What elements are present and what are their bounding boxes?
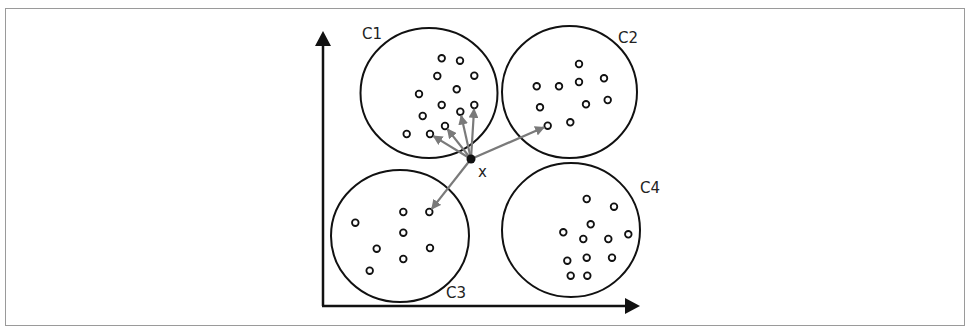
- cluster-c3-boundary: [331, 170, 469, 302]
- cluster-c4-label: C4: [640, 179, 660, 197]
- c1-point: [403, 131, 410, 138]
- c2-point: [567, 119, 574, 126]
- c1-point: [438, 55, 445, 62]
- y-axis-arrowhead-icon: [315, 31, 331, 46]
- c4-point: [580, 236, 587, 243]
- c2-point: [601, 75, 608, 82]
- query-point: [467, 155, 476, 164]
- clustering-diagram: C1 C2 C3 C4 x: [0, 0, 968, 334]
- c4-point: [583, 196, 590, 203]
- c1-point: [438, 102, 445, 109]
- c1-point: [453, 86, 460, 93]
- c1-point: [457, 108, 464, 115]
- c3-point: [400, 256, 407, 263]
- c2-point: [533, 83, 540, 90]
- cluster-c3-label: C3: [446, 284, 466, 302]
- c3-point: [427, 245, 434, 252]
- c3-point: [366, 267, 373, 274]
- c3-point: [352, 219, 359, 226]
- c4-point: [583, 254, 590, 261]
- c1-point: [416, 91, 423, 98]
- c4-point: [584, 272, 591, 279]
- c4-point: [605, 236, 612, 243]
- cluster-c1-boundary: [361, 28, 498, 158]
- c1-point: [471, 102, 478, 109]
- c4-point: [564, 257, 571, 264]
- data-points: [352, 55, 632, 279]
- x-axis-arrowhead-icon: [625, 298, 640, 314]
- c1-point: [427, 131, 434, 138]
- c2-point: [576, 61, 583, 68]
- c4-point: [567, 272, 574, 279]
- arrow-to-c1: [471, 109, 474, 159]
- c2-point: [556, 83, 563, 90]
- c4-point: [609, 254, 616, 261]
- c2-point: [544, 122, 551, 129]
- arrow-to-c3: [432, 159, 471, 209]
- c3-point: [400, 209, 407, 216]
- c3-point: [373, 245, 380, 252]
- c1-point: [419, 113, 426, 120]
- c1-point: [434, 73, 441, 80]
- cluster-c2-label: C2: [618, 29, 638, 47]
- c4-point: [625, 231, 632, 238]
- c2-point: [576, 79, 583, 86]
- c4-point: [611, 203, 618, 210]
- cluster-c2-boundary: [502, 26, 637, 158]
- c1-point: [457, 57, 464, 64]
- c2-point: [537, 104, 544, 111]
- c2-point: [604, 97, 611, 104]
- cluster-c1-label: C1: [362, 25, 382, 43]
- c1-point: [471, 72, 478, 79]
- c1-point: [442, 123, 449, 130]
- c4-point: [587, 221, 594, 228]
- arrow-to-c2: [471, 127, 544, 159]
- c3-point: [426, 209, 433, 216]
- c4-point: [560, 229, 567, 236]
- c2-point: [583, 101, 590, 108]
- c3-point: [400, 229, 407, 236]
- query-point-label: x: [478, 163, 487, 181]
